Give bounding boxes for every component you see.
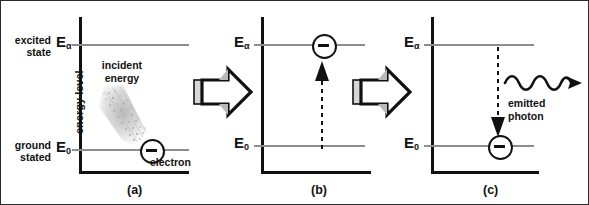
panel-c-label-e-alpha: Eα [404, 34, 420, 51]
panel-b-x-axis [261, 171, 371, 174]
e-zero-subscript: 0 [66, 146, 71, 156]
e-alpha-symbol: E [56, 33, 66, 50]
panel-a: Eα E0 excited state ground stated energy… [1, 1, 201, 205]
panel-a-level-excited [72, 44, 189, 46]
panel-a-label-e-zero: E0 [56, 139, 71, 156]
e-zero-symbol-c: E [404, 134, 414, 151]
panel-b-level-excited [254, 44, 365, 46]
panel-b-label-e-zero: E0 [234, 135, 249, 152]
incident-energy-label: incident energy [93, 59, 151, 84]
panel-c: Eα E0 emitted photon (c) [391, 1, 589, 205]
panel-c-y-axis [431, 17, 434, 174]
transition-arrow-up [314, 59, 330, 149]
electron-label: electron [150, 156, 191, 169]
e-alpha-subscript-b: α [244, 41, 250, 51]
e-alpha-subscript: α [66, 41, 72, 51]
panel-b-caption: (b) [311, 183, 327, 197]
panel-b-y-axis [261, 17, 264, 174]
e-zero-symbol-b: E [234, 134, 244, 151]
excited-state-label: excited state [3, 34, 51, 58]
energy-level-diagram: Eα E0 excited state ground stated energy… [0, 0, 589, 205]
ground-state-label: ground stated [3, 139, 51, 163]
incident-energy-beam [93, 85, 159, 147]
panel-a-caption: (a) [127, 183, 142, 197]
emitted-photon-wave-icon [504, 71, 584, 95]
panel-a-x-axis [79, 171, 189, 174]
panel-c-x-axis [431, 171, 539, 174]
panel-c-level-ground [424, 145, 534, 147]
e-zero-symbol: E [56, 138, 66, 155]
panel-b-level-ground [254, 145, 365, 147]
panel-c-label-e-zero: E0 [404, 135, 419, 152]
e-alpha-symbol-c: E [404, 33, 414, 50]
panel-a-level-ground [72, 149, 189, 151]
electron-symbol-b [312, 34, 337, 59]
panel-c-level-excited [424, 44, 534, 46]
energy-level-axis-title: energy level [73, 70, 85, 134]
e-alpha-subscript-c: α [414, 41, 420, 51]
e-zero-subscript-b: 0 [244, 142, 249, 152]
panel-c-caption: (c) [483, 183, 498, 197]
emitted-photon-label: emitted photon [508, 97, 545, 122]
e-zero-subscript-c: 0 [414, 142, 419, 152]
panel-b-label-e-alpha: Eα [234, 34, 250, 51]
electron-symbol-c [488, 135, 513, 160]
e-alpha-symbol-b: E [234, 33, 244, 50]
panel-a-label-e-alpha: Eα [56, 34, 72, 51]
